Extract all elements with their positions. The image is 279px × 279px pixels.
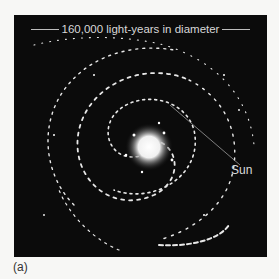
diameter-text: 160,000 light-years in diameter: [62, 23, 220, 35]
figure-panel-label: (a): [13, 260, 28, 274]
sun-label: Sun: [231, 163, 252, 177]
diameter-scale-label: 160,000 light-years in diameter: [14, 23, 267, 35]
spiral-galaxy-illustration: [14, 15, 267, 257]
galaxy-image-panel: 160,000 light-years in diameter Sun: [14, 15, 267, 257]
sun-pointer-line: [170, 105, 240, 165]
scale-line-left: [31, 29, 59, 30]
scale-line-right: [222, 29, 250, 30]
